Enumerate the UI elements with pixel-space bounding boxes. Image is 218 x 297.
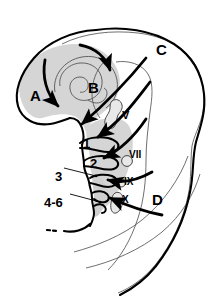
arch-label-4-6: 4-6 — [44, 196, 63, 209]
shaded-neural-mass — [19, 44, 132, 217]
region-label-a: A — [30, 88, 41, 103]
nerve-label-x: X — [122, 195, 129, 205]
arch-label-3: 3 — [55, 170, 62, 183]
nerve-label-vii: VII — [129, 150, 141, 160]
dashed-tail-line — [47, 224, 90, 232]
region-label-c: C — [156, 42, 167, 57]
nerve-label-ix: IX — [124, 177, 133, 187]
arch-label-1: 1 — [83, 137, 90, 150]
diagram-canvas — [0, 0, 218, 297]
embryo-diagram-figure: A B C D 1 2 3 4-6 V VII IX X — [0, 0, 218, 297]
region-label-d: D — [152, 192, 163, 207]
arch-label-2: 2 — [90, 157, 97, 170]
region-label-b: B — [88, 80, 99, 95]
nerve-label-v: V — [122, 110, 129, 121]
